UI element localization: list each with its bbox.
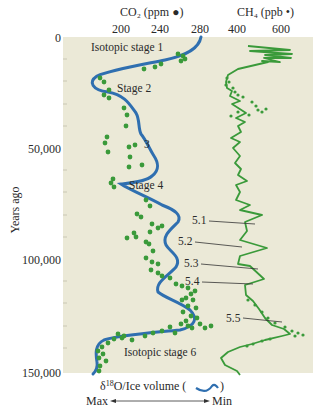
label-isotopic-stage-1: Isotopic stage 1 <box>91 41 163 54</box>
label-5-5: 5.5 <box>226 312 241 324</box>
label-5-1: 5.1 <box>192 214 207 226</box>
ch4-tick-600: 600 <box>272 22 290 36</box>
y-axis-label: Years ago <box>8 186 22 233</box>
y-tick-100000: 100,000 <box>22 253 61 267</box>
wave-legend-icon <box>196 385 218 391</box>
min-label: Min <box>212 394 232 408</box>
label-stage-3: 3 <box>144 138 150 150</box>
label-stage-2: Stage 2 <box>117 82 151 95</box>
paleoclimate-chart: CO₂ (ppm ●) CH₄ (ppb •) 200 240 280 400 … <box>0 0 320 411</box>
y-tick-150000: 150,000 <box>22 366 61 380</box>
label-5-2: 5.2 <box>178 235 193 247</box>
ch4-tick-400: 400 <box>228 22 246 36</box>
co2-tick-200: 200 <box>112 22 130 36</box>
label-5-3: 5.3 <box>184 257 199 269</box>
ch4-axis-label: CH₄ (ppb •) <box>237 5 294 19</box>
label-isotopic-stage-6: Isotopic stage 6 <box>124 346 196 359</box>
co2-tick-280: 280 <box>191 22 209 36</box>
y-tick-0: 0 <box>55 31 61 45</box>
double-arrow <box>110 399 210 403</box>
max-label: Max <box>86 394 108 408</box>
y-tick-50000: 50,000 <box>28 142 61 156</box>
co2-tick-240: 240 <box>151 22 169 36</box>
co2-axis-label: CO₂ (ppm ●) <box>120 5 183 19</box>
bottom-axis-label: δ18O/Ice volume ( ) <box>100 379 224 393</box>
label-5-4: 5.4 <box>185 275 200 287</box>
label-stage-4: Stage 4 <box>129 179 163 192</box>
delta-symbol: δ18O/Ice volume ( <box>100 379 186 393</box>
bottom-label-close: ) <box>220 379 224 393</box>
